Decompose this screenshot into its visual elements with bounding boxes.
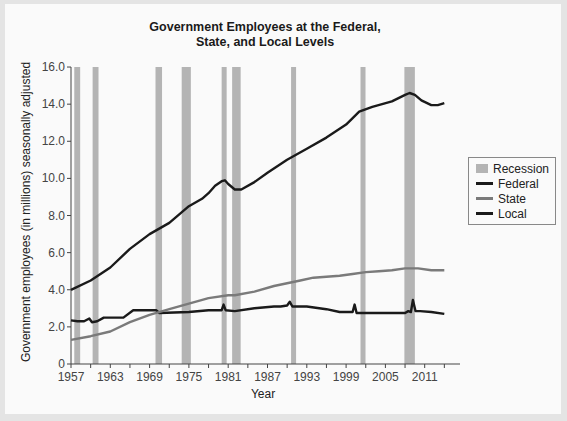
y-tick-label: 14.0 bbox=[42, 97, 66, 111]
legend-label: Recession bbox=[493, 162, 549, 176]
legend-item-state: State bbox=[476, 191, 549, 206]
legend-item-recession: Recession bbox=[476, 161, 549, 176]
x-axis-label: Year bbox=[251, 387, 275, 401]
x-tick-label: 1975 bbox=[176, 370, 203, 384]
x-tick-label: 2005 bbox=[372, 370, 399, 384]
legend-item-local: Local bbox=[476, 206, 549, 221]
local-line-swatch-icon bbox=[476, 212, 493, 215]
local-line bbox=[71, 93, 444, 290]
x-tick-label: 1957 bbox=[58, 370, 85, 384]
y-tick-label: 8.0 bbox=[48, 209, 65, 223]
x-tick-label: 1981 bbox=[215, 370, 242, 384]
y-tick-label: 12.0 bbox=[42, 134, 66, 148]
legend-label: Federal bbox=[498, 177, 539, 191]
federal-line-swatch-icon bbox=[476, 182, 493, 185]
x-tick-label: 1963 bbox=[97, 370, 124, 384]
y-tick-label: 0 bbox=[58, 357, 65, 371]
x-tick-label: 1987 bbox=[254, 370, 281, 384]
recession-swatch-icon bbox=[476, 164, 488, 173]
recession-bar bbox=[155, 67, 162, 364]
legend: Recession Federal State Local bbox=[468, 157, 556, 225]
y-tick-label: 6.0 bbox=[48, 246, 65, 260]
x-tick-label: 1993 bbox=[293, 370, 320, 384]
recession-bar bbox=[182, 67, 191, 364]
y-tick-label: 10.0 bbox=[42, 171, 66, 185]
recession-bar bbox=[74, 67, 80, 364]
recession-bar bbox=[291, 67, 296, 364]
x-tick-label: 1969 bbox=[136, 370, 163, 384]
recession-bar bbox=[93, 67, 99, 364]
x-tick-label: 2011 bbox=[412, 370, 438, 384]
legend-item-federal: Federal bbox=[476, 176, 549, 191]
recession-bar bbox=[404, 67, 414, 364]
x-tick-label: 1999 bbox=[333, 370, 360, 384]
state-line bbox=[71, 268, 444, 340]
legend-label: State bbox=[498, 192, 526, 206]
recession-bar bbox=[232, 67, 241, 364]
y-tick-label: 2.0 bbox=[48, 320, 65, 334]
y-tick-label: 4.0 bbox=[48, 283, 65, 297]
state-line-swatch-icon bbox=[476, 197, 493, 200]
recession-bar bbox=[222, 67, 227, 364]
federal-line bbox=[71, 300, 444, 322]
y-tick-label: 16.0 bbox=[42, 60, 66, 74]
y-axis-label: Government employees (in millions) seaso… bbox=[19, 62, 33, 362]
legend-label: Local bbox=[498, 207, 527, 221]
